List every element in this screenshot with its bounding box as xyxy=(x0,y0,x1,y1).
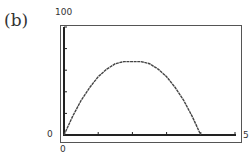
data-curve xyxy=(64,62,201,135)
axis-ticks xyxy=(64,27,235,135)
plot-frame xyxy=(61,26,242,143)
plot-area xyxy=(0,0,250,161)
